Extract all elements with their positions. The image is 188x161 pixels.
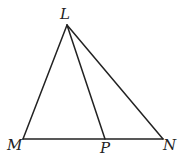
- triangle-diagram: L M P N: [0, 0, 188, 161]
- segment-LM: [23, 25, 67, 139]
- segment-LN: [67, 25, 163, 139]
- vertex-label-N: N: [162, 136, 177, 154]
- segment-LP: [67, 25, 105, 139]
- point-label-P: P: [99, 139, 111, 157]
- vertex-label-L: L: [59, 5, 70, 23]
- vertex-label-M: M: [6, 136, 23, 154]
